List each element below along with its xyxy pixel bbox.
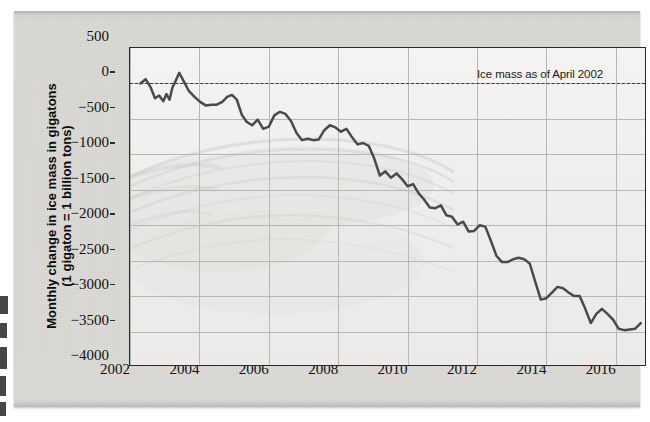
data-series-line [130, 48, 646, 366]
y-axis-tick-mark [110, 284, 115, 285]
y-axis-tick-label: −3000 [14, 276, 109, 293]
y-axis-tick-label: −1000 [14, 134, 109, 151]
y-axis-tick-mark [110, 71, 115, 72]
x-axis-tick-label: 2002 [100, 361, 130, 378]
page-edge-fragment-4 [0, 376, 6, 396]
page-edge-fragment-2 [0, 323, 7, 338]
y-axis-tick-mark [110, 213, 115, 214]
ice-mass-line [140, 73, 640, 330]
y-axis-tick-label: −2000 [14, 205, 109, 222]
scanned-page: Monthly change in ice mass in gigatons (… [0, 0, 650, 422]
page-edge-fragment-1 [0, 296, 8, 314]
figure-bottom-edge [14, 401, 640, 407]
chart-figure: Monthly change in ice mass in gigatons (… [14, 11, 640, 407]
figure-top-edge [14, 11, 640, 15]
y-axis-tick-mark [110, 178, 115, 179]
y-axis-tick-label: 0 [14, 63, 109, 80]
y-axis-tick-label: −2500 [14, 240, 109, 257]
plot-area: Ice mass as of April 2002 [129, 47, 646, 366]
y-axis-tick-mark [110, 249, 115, 250]
y-axis-tick-mark [110, 142, 115, 143]
y-axis-tick-label: −4000 [14, 347, 109, 364]
page-edge-fragment-3 [0, 347, 7, 369]
page-edge-fragment-5 [0, 402, 6, 416]
y-axis-tick-label: −1500 [14, 169, 109, 186]
y-axis-tick-mark [110, 320, 115, 321]
y-axis-tick-mark [110, 107, 115, 108]
y-axis-tick-label: −3500 [14, 311, 109, 328]
y-axis-tick-label: 500 [14, 28, 109, 45]
y-axis-tick-label: −500 [14, 98, 109, 115]
